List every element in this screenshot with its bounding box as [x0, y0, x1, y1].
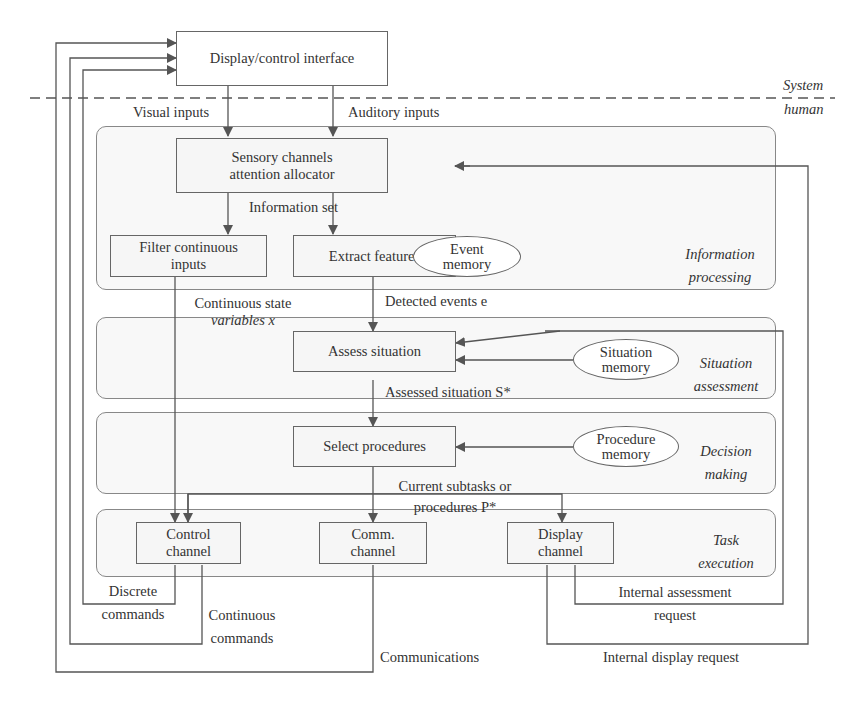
discrete-commands-line1: Discrete: [93, 583, 173, 600]
internal-assessment-label: Internal assessment request: [585, 584, 765, 624]
filter-line2: inputs: [171, 256, 206, 273]
sensory-line2: attention allocator: [229, 166, 334, 183]
procedure-memory-ellipse: Procedure memory: [573, 426, 679, 467]
display-line2: channel: [538, 543, 583, 560]
task-execution-line1: Task: [676, 532, 776, 549]
assessed-situation-label: Assessed situation S*: [385, 384, 511, 401]
situation-assessment-line2: assessment: [676, 378, 776, 395]
display-line1: Display: [538, 526, 583, 543]
display-control-interface-label: Display/control interface: [210, 50, 355, 67]
event-memory-line1: Event: [450, 242, 484, 257]
procedure-memory-line2: memory: [602, 447, 650, 462]
filter-continuous-inputs-box: Filter continuous inputs: [110, 235, 267, 277]
control-channel-box: Control channel: [136, 522, 241, 564]
situation-memory-ellipse: Situation memory: [573, 339, 679, 380]
communications-label: Communications: [380, 649, 479, 666]
event-memory-ellipse: Event memory: [413, 236, 521, 277]
situation-assessment-line1: Situation: [676, 355, 776, 372]
decision-making-label: Decision making: [676, 443, 776, 483]
filter-line1: Filter continuous: [139, 239, 238, 256]
continuous-state-label: Continuous state variables x: [178, 295, 308, 329]
task-execution-line2: execution: [676, 555, 776, 572]
assess-label: Assess situation: [328, 343, 421, 360]
continuous-state-line2: variables x: [178, 312, 308, 329]
comm-line1: Comm.: [351, 526, 394, 543]
visual-inputs-label: Visual inputs: [133, 104, 209, 121]
human-label: human: [784, 101, 823, 118]
control-line1: Control: [166, 526, 210, 543]
internal-display-request-label: Internal display request: [603, 649, 739, 666]
control-line2: channel: [166, 543, 211, 560]
current-subtasks-label: Current subtasks or procedures P*: [380, 478, 530, 516]
procedure-memory-line1: Procedure: [597, 432, 656, 447]
comm-line2: channel: [350, 543, 395, 560]
select-label: Select procedures: [323, 438, 426, 455]
information-processing-label: Information processing: [670, 246, 770, 286]
sensory-line1: Sensory channels: [231, 149, 332, 166]
select-procedures-box: Select procedures: [293, 426, 456, 467]
decision-making-line2: making: [676, 466, 776, 483]
task-execution-label: Task execution: [676, 532, 776, 572]
continuous-commands-line2: commands: [202, 630, 282, 647]
sensory-channels-box: Sensory channels attention allocator: [176, 138, 388, 193]
current-subtasks-line2: procedures P*: [380, 499, 530, 516]
comm-channel-box: Comm. channel: [319, 522, 427, 564]
discrete-commands-label: Discrete commands: [93, 583, 173, 623]
situation-memory-line2: memory: [602, 360, 650, 375]
display-control-interface-box: Display/control interface: [176, 31, 388, 86]
decision-making-line1: Decision: [676, 443, 776, 460]
extract-label: Extract features: [329, 248, 420, 265]
current-subtasks-line1: Current subtasks or: [380, 478, 530, 495]
internal-assessment-line1: Internal assessment: [585, 584, 765, 601]
display-channel-box: Display channel: [507, 522, 614, 564]
auditory-inputs-label: Auditory inputs: [348, 104, 439, 121]
internal-assessment-line2: request: [585, 607, 765, 624]
assess-situation-box: Assess situation: [293, 331, 456, 372]
situation-memory-line1: Situation: [600, 345, 652, 360]
continuous-state-line1: Continuous state: [178, 295, 308, 312]
discrete-commands-line2: commands: [93, 606, 173, 623]
event-memory-line2: memory: [443, 257, 491, 272]
detected-events-label: Detected events e: [385, 293, 487, 310]
continuous-commands-line1: Continuous: [202, 607, 282, 624]
information-processing-line2: processing: [670, 269, 770, 286]
system-label: System: [783, 77, 823, 94]
situation-assessment-label: Situation assessment: [676, 355, 776, 395]
information-set-label: Information set: [249, 199, 338, 216]
continuous-commands-label: Continuous commands: [202, 607, 282, 647]
information-processing-line1: Information: [670, 246, 770, 263]
